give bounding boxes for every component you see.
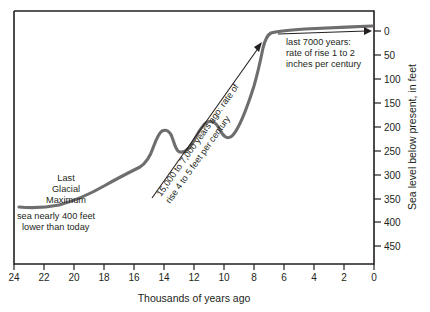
- y-tick-label-50: 50: [384, 50, 396, 61]
- x-axis-title: Thousands of years ago: [138, 292, 251, 304]
- y-tick-label-150: 150: [384, 98, 401, 109]
- y-axis-ticks: [374, 31, 381, 246]
- recent-rise-line-2: rate of rise 1 to 2: [286, 48, 355, 58]
- x-tick-label-10: 10: [218, 272, 230, 283]
- lgm-line-3: Maximum: [46, 195, 86, 205]
- rapid-rise-annotation: 15,000 to 7,000 years ago: rate of rise …: [154, 82, 241, 205]
- y-axis-title: Sea level below present, in feet: [406, 64, 418, 210]
- y-tick-label-450: 450: [384, 241, 401, 252]
- sea-depth-annotation: sea nearly 400 feet lower than today: [17, 211, 96, 232]
- lgm-annotation: Last Glacial Maximum: [46, 173, 86, 205]
- y-tick-label-100: 100: [384, 74, 401, 85]
- y-tick-label-300: 300: [384, 170, 401, 181]
- rapid-rise-arrow-head: [254, 42, 262, 52]
- x-axis-tick-labels: 24 22 20 18 16 14 12 10 8 6 4 2 0: [8, 272, 377, 283]
- y-tick-label-0: 0: [384, 26, 390, 37]
- sea-depth-line-1: sea nearly 400 feet: [17, 211, 96, 221]
- x-tick-label-8: 8: [251, 272, 257, 283]
- y-tick-label-400: 400: [384, 217, 401, 228]
- x-tick-label-16: 16: [128, 272, 140, 283]
- x-tick-label-12: 12: [188, 272, 200, 283]
- x-axis-ticks: [14, 264, 374, 270]
- x-tick-label-2: 2: [341, 272, 347, 283]
- x-tick-label-14: 14: [158, 272, 170, 283]
- x-tick-label-18: 18: [98, 272, 110, 283]
- sea-level-chart-figure: 0 50 100 150 200 250 300 350 400 450: [0, 0, 430, 312]
- y-axis-tick-labels: 0 50 100 150 200 250 300 350 400 450: [384, 26, 401, 252]
- rapid-rise-line-1: 15,000 to 7,000 years ago: rate of: [154, 82, 241, 198]
- sea-depth-line-2: lower than today: [22, 222, 90, 232]
- recent-rise-line-3: inches per century: [286, 59, 361, 69]
- x-tick-label-20: 20: [68, 272, 80, 283]
- recent-rise-annotation: last 7000 years: rate of rise 1 to 2 inc…: [286, 37, 361, 69]
- y-tick-label-350: 350: [384, 194, 401, 205]
- x-tick-label-0: 0: [371, 272, 377, 283]
- x-tick-label-4: 4: [311, 272, 317, 283]
- x-tick-label-22: 22: [38, 272, 50, 283]
- x-tick-label-6: 6: [281, 272, 287, 283]
- recent-rise-line-1: last 7000 years:: [286, 37, 351, 47]
- y-tick-label-250: 250: [384, 146, 401, 157]
- x-tick-label-24: 24: [8, 272, 20, 283]
- rapid-rise-line-2: rise 4 to 5 feet per century: [163, 114, 232, 206]
- lgm-line-2: Glacial: [52, 184, 80, 194]
- chart-canvas: 0 50 100 150 200 250 300 350 400 450: [0, 0, 430, 312]
- recent-rise-arrow-head: [364, 27, 372, 35]
- lgm-line-1: Last: [57, 173, 75, 183]
- y-tick-label-200: 200: [384, 122, 401, 133]
